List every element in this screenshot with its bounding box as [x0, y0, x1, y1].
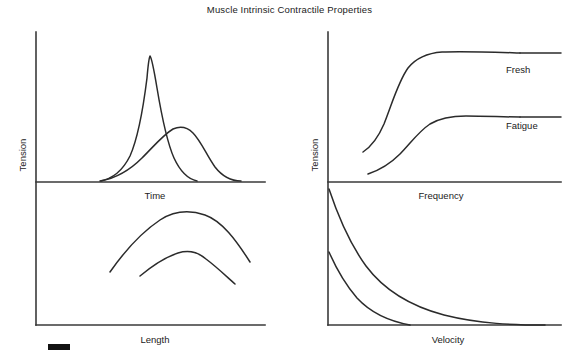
twitch-y-axis-label: Tension	[17, 139, 28, 172]
figure-container: Muscle Intrinsic Contractile Properties …	[0, 0, 579, 360]
series-label-fatigue: Fatigue	[506, 120, 538, 131]
curve-force-frequency-fresh	[363, 52, 520, 152]
figure-canvas: Tension Time Length Tension Frequency Ve…	[0, 0, 579, 360]
force-velocity-x-axis-label: Velocity	[432, 334, 465, 345]
curve-force-velocity-upper	[329, 189, 545, 325]
curve-length-tension-upper	[110, 212, 250, 272]
length-tension-x-axis-label: Length	[140, 334, 169, 345]
series-label-fresh: Fresh	[506, 64, 530, 75]
scale-bar-mark	[48, 344, 70, 350]
twitch-x-axis-label: Time	[145, 190, 166, 201]
curve-fast-twitch	[100, 56, 197, 181]
force-frequency-x-axis-label: Frequency	[419, 190, 464, 201]
force-frequency-y-axis-label: Tension	[309, 139, 320, 172]
curve-slow-twitch	[101, 127, 241, 181]
curve-force-velocity-lower	[329, 252, 410, 325]
curve-force-frequency-fatigue	[368, 116, 520, 174]
curve-length-tension-lower	[140, 252, 235, 284]
